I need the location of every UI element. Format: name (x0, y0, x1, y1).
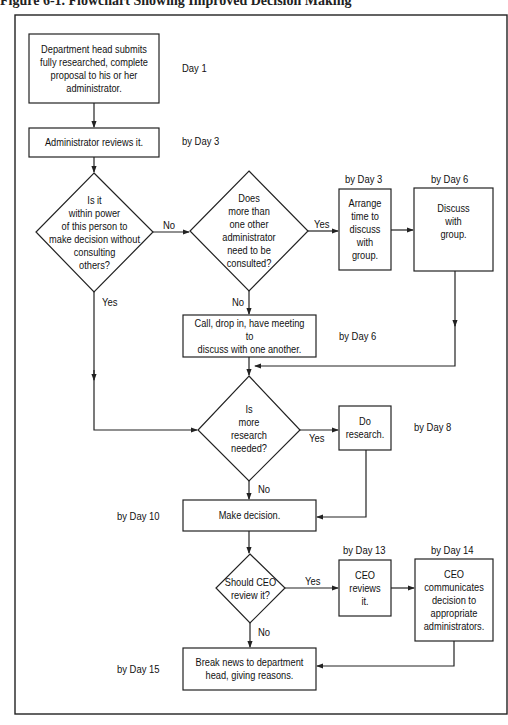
node-submit: Department head submits fully researched… (37, 34, 151, 103)
node-arrange-line: Arrange (349, 197, 382, 210)
node-submit-line: proposal to his or her (40, 69, 148, 82)
node-ceo-reviews: CEO reviews it. (342, 560, 388, 616)
node-q-power-line: of this person to (49, 220, 140, 233)
node-arrange-line: time to (349, 210, 382, 223)
node-call: Call, drop in, have meeting to discuss w… (191, 315, 308, 357)
node-ceo-reviews-line: reviews (349, 582, 380, 595)
node-q-research-line: research (231, 429, 267, 442)
node-q-more-admins-line: consulted? (222, 257, 275, 270)
node-call-line: Call, drop in, have meeting to (191, 317, 308, 343)
node-ceo-communicates-line: decision to (424, 594, 485, 607)
timeline-submit: Day 1 (182, 62, 207, 74)
node-ceo-reviews-line: it. (349, 595, 380, 608)
node-arrange-line: group. (349, 249, 382, 262)
node-do-research: Do research. (342, 406, 388, 450)
edge-label-research-yes: Yes (309, 432, 324, 444)
timeline-make-decision: by Day 10 (117, 510, 160, 522)
edge-label-power-no: No (163, 219, 175, 231)
timeline-arrange: by Day 3 (345, 173, 382, 185)
node-q-ceo-line: review it? (225, 589, 276, 602)
timeline-call: by Day 6 (339, 330, 376, 342)
node-q-more-admins-line: one other (222, 218, 275, 231)
node-discuss-group: Discuss with group. (419, 188, 489, 254)
node-q-research-line: more (231, 416, 267, 429)
node-q-power-line: others? (49, 259, 140, 272)
node-q-research-line: needed? (231, 442, 267, 455)
node-q-more-admins-line: Does (222, 192, 275, 205)
node-q-power-line: Is it (49, 194, 140, 207)
timeline-review: by Day 3 (182, 135, 219, 147)
node-q-ceo: Should CEO review it? (220, 554, 281, 623)
node-q-more-admins-line: more than (222, 205, 275, 218)
node-ceo-communicates-line: administrators. (424, 620, 485, 633)
node-q-more-admins: Does more than one other administrator n… (197, 171, 301, 291)
node-discuss-group-line: with (437, 215, 469, 228)
node-arrange-line: with (349, 236, 382, 249)
timeline-ceo-reviews: by Day 13 (343, 544, 386, 556)
node-q-more-admins-line: administrator (222, 231, 275, 244)
edge-label-admins-yes: Yes (314, 218, 329, 230)
edge-label-ceo-yes: Yes (305, 575, 320, 587)
node-arrange-line: discuss (349, 223, 382, 236)
node-q-power-line: make decision without (49, 233, 140, 246)
node-q-more-admins-line: need to be (222, 244, 275, 257)
node-q-power-line: within power (49, 207, 140, 220)
node-arrange: Arrange time to discuss with group. (342, 189, 388, 270)
node-ceo-communicates-line: communicates (424, 581, 485, 594)
timeline-discuss-group: by Day 6 (431, 173, 468, 185)
node-discuss-group-line: Discuss (437, 202, 469, 215)
node-q-power-line: consulting (49, 246, 140, 259)
edge-label-ceo-no: No (258, 626, 270, 638)
node-ceo-communicates: CEO communicates decision to appropriate… (420, 559, 489, 641)
node-make-decision: Make decision. (191, 500, 308, 531)
node-submit-line: Department head submits (40, 43, 148, 56)
node-do-research-line: research. (346, 428, 385, 441)
node-ceo-reviews-line: CEO (349, 569, 380, 582)
node-break-news-line: Break news to department (196, 656, 304, 669)
timeline-break-news: by Day 15 (117, 663, 160, 675)
node-submit-line: administrator. (40, 82, 148, 95)
node-break-news: Break news to department head, giving re… (191, 648, 308, 690)
edge-label-admins-no: No (232, 296, 244, 308)
timeline-do-research: by Day 8 (414, 421, 451, 433)
timeline-ceo-communicates: by Day 14 (431, 544, 474, 556)
node-q-research: Is more research needed? (204, 376, 294, 481)
edge-label-power-yes: Yes (102, 296, 117, 308)
node-q-research-line: Is (231, 403, 267, 416)
edge-label-research-no: No (258, 483, 270, 495)
node-q-power: Is it within power of this person to mak… (43, 173, 146, 292)
node-call-line: discuss with one another. (191, 343, 308, 356)
node-ceo-communicates-line: CEO (424, 568, 485, 581)
node-discuss-group-line: group. (437, 228, 469, 241)
node-break-news-line: head, giving reasons. (196, 669, 304, 682)
node-submit-line: fully researched, complete (40, 56, 148, 69)
node-ceo-communicates-line: appropriate (424, 607, 485, 620)
node-review: Administrator reviews it. (37, 128, 151, 157)
node-do-research-line: Do (346, 415, 385, 428)
node-q-ceo-line: Should CEO (225, 576, 276, 589)
